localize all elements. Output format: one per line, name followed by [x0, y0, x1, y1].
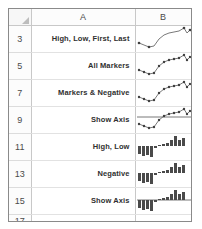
table-row: 7 Markers & Negative — [9, 79, 191, 106]
table-row: 13 Negative — [9, 160, 191, 187]
worksheet-grid[interactable]: A B 3 High, Low, First, Last — [8, 8, 192, 222]
column-sparkline-show-axis-icon — [136, 188, 192, 214]
table-row: 17 — [9, 214, 191, 222]
table-row: 3 High, Low, First, Last — [9, 25, 191, 52]
cell-a9-label[interactable]: Show Axis — [31, 106, 135, 133]
row-header-7[interactable]: 7 — [9, 79, 31, 106]
cell-b11-sparkline[interactable] — [135, 133, 191, 160]
cell-b5-sparkline[interactable] — [135, 52, 191, 79]
column-header-b[interactable]: B — [135, 9, 191, 25]
table-row: 9 Show Axis — [9, 106, 191, 133]
row-header-11[interactable]: 11 — [9, 133, 31, 160]
column-sparkline-high-low-icon — [136, 134, 192, 160]
cell-b3-sparkline[interactable] — [135, 25, 191, 52]
cell-a5-label[interactable]: All Markers — [31, 52, 135, 79]
cell-b9-sparkline[interactable] — [135, 106, 191, 133]
line-sparkline-markers-negative-icon — [136, 80, 192, 106]
select-all-corner[interactable] — [9, 9, 31, 25]
cell-a17-label[interactable] — [31, 214, 135, 222]
column-header-a[interactable]: A — [31, 9, 135, 25]
table-row: 5 All Markers — [9, 52, 191, 79]
cell-a7-label[interactable]: Markers & Negative — [31, 79, 135, 106]
spreadsheet-table: A B 3 High, Low, First, Last — [9, 9, 192, 222]
table-row: 15 Show Axis — [9, 187, 191, 214]
table-row: 11 High, Low — [9, 133, 191, 160]
row-header-17[interactable]: 17 — [9, 214, 31, 222]
row-header-9[interactable]: 9 — [9, 106, 31, 133]
cell-b7-sparkline[interactable] — [135, 79, 191, 106]
cell-b13-sparkline[interactable] — [135, 160, 191, 187]
column-sparkline-negative-icon — [136, 161, 192, 187]
row-header-15[interactable]: 15 — [9, 187, 31, 214]
cell-a15-label[interactable]: Show Axis — [31, 187, 135, 214]
select-all-triangle-icon — [22, 17, 29, 24]
row-header-3[interactable]: 3 — [9, 25, 31, 52]
line-sparkline-show-axis-icon — [136, 107, 192, 133]
cell-b15-sparkline[interactable] — [135, 187, 191, 214]
column-header-row: A B — [9, 9, 191, 25]
cell-a11-label[interactable]: High, Low — [31, 133, 135, 160]
line-sparkline-all-markers-icon — [136, 53, 192, 79]
cell-a3-label[interactable]: High, Low, First, Last — [31, 25, 135, 52]
cell-a13-label[interactable]: Negative — [31, 160, 135, 187]
line-sparkline-high-low-first-last-icon — [136, 26, 192, 52]
cell-b17-sparkline[interactable] — [135, 214, 191, 222]
row-header-13[interactable]: 13 — [9, 160, 31, 187]
row-header-5[interactable]: 5 — [9, 52, 31, 79]
